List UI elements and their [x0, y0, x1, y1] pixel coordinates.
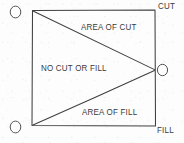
- cut-boundary-line: [33, 11, 155, 70]
- fill-corner-label: FILL: [157, 125, 174, 135]
- cut-corner-label: CUT: [158, 1, 175, 11]
- diagram-canvas: AREA OF CUT NO CUT OR FILL AREA OF FILL …: [0, 0, 184, 143]
- right-middle-node-circle: [157, 64, 167, 75]
- top-left-node-circle: [10, 6, 21, 18]
- area-of-fill-label: AREA OF FILL: [82, 107, 137, 117]
- bottom-left-node-circle: [10, 121, 21, 133]
- area-of-cut-label: AREA OF CUT: [81, 22, 137, 32]
- no-cut-or-fill-label: NO CUT OR FILL: [41, 63, 107, 73]
